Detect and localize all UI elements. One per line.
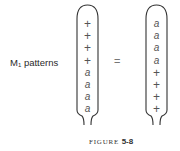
equals-sign: = bbox=[114, 55, 120, 67]
label-main: M bbox=[10, 57, 18, 68]
caption-word: FIGURE bbox=[89, 138, 119, 146]
right-pattern-list: a a a a + + + + bbox=[141, 18, 172, 116]
pattern-item: a bbox=[85, 91, 91, 103]
pattern-item: a bbox=[154, 18, 160, 30]
patterns-label: M1 patterns bbox=[10, 57, 58, 68]
pattern-item: a bbox=[154, 42, 160, 54]
pattern-item: a bbox=[154, 55, 160, 67]
pattern-item: + bbox=[84, 42, 91, 54]
pattern-item: a bbox=[85, 79, 91, 91]
figure-caption: FIGURE 5-8 bbox=[89, 137, 133, 146]
pattern-item: a bbox=[85, 67, 91, 79]
left-pattern-list: + + + + a a a a bbox=[72, 18, 103, 116]
pattern-item: a bbox=[154, 30, 160, 42]
left-capsule: + + + + a a a a bbox=[72, 0, 103, 126]
label-suffix: patterns bbox=[21, 57, 58, 68]
right-capsule: a a a a + + + + bbox=[141, 0, 172, 126]
pattern-item: + bbox=[153, 103, 160, 115]
pattern-item: + bbox=[84, 55, 91, 67]
pattern-item: a bbox=[85, 103, 91, 115]
caption-number: 5-8 bbox=[122, 137, 134, 146]
